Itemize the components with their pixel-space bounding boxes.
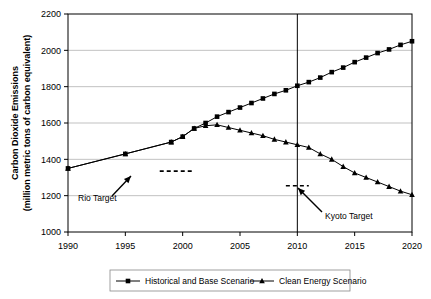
data-point-2013 — [329, 70, 334, 75]
data-point-2007 — [261, 96, 266, 101]
chart-legend: Historical and Base ScenarioClean Energy… — [110, 270, 367, 291]
y-tick-label-2000: 2000 — [41, 46, 61, 56]
y-tick-label-2200: 2200 — [41, 9, 61, 19]
data-point-2008 — [272, 92, 277, 97]
x-axis: 1990199520002005201020152020 — [58, 232, 422, 251]
data-point-2005 — [238, 105, 243, 110]
y-axis-title: Carbon Dioxide Emissions (million metric… — [10, 35, 32, 212]
y-tick-label-1800: 1800 — [41, 82, 61, 92]
data-point-2010 — [295, 83, 300, 88]
y-axis-title-line1: Carbon Dioxide Emissions — [10, 66, 20, 180]
y-tick-label-1200: 1200 — [41, 191, 61, 201]
annotation-label: Rio Target — [78, 193, 117, 203]
y-axis-title-line2: (million metric tons of carbon equivalen… — [22, 35, 32, 212]
data-point-2019 — [398, 43, 403, 48]
data-point-2009 — [284, 88, 289, 93]
annotation-label: Kyoto Target — [325, 211, 373, 221]
y-tick-label-1400: 1400 — [41, 155, 61, 165]
y-tick-label-1000: 1000 — [41, 227, 61, 237]
legend-label: Historical and Base Scenario — [145, 276, 254, 286]
data-point-2020 — [410, 39, 415, 44]
data-point-2015 — [352, 60, 357, 65]
x-tick-label-1995: 1995 — [115, 241, 135, 251]
data-point-2016 — [364, 55, 369, 60]
data-point-2011 — [307, 80, 312, 85]
x-tick-label-1990: 1990 — [58, 241, 78, 251]
legend-sample-marker — [126, 279, 131, 284]
emissions-line-chart: 1000120014001600180020002200 19901995200… — [0, 0, 431, 299]
x-tick-label-2020: 2020 — [402, 241, 422, 251]
data-point-2017 — [375, 51, 380, 56]
x-tick-label-2010: 2010 — [287, 241, 307, 251]
y-axis: 1000120014001600180020002200 — [41, 9, 68, 237]
chart-figure: 1000120014001600180020002200 19901995200… — [0, 0, 431, 299]
data-point-2012 — [318, 75, 323, 80]
x-tick-label-2005: 2005 — [230, 241, 250, 251]
data-point-2014 — [341, 65, 346, 70]
x-tick-label-2015: 2015 — [345, 241, 365, 251]
x-tick-label-2000: 2000 — [173, 241, 193, 251]
data-point-2018 — [387, 47, 392, 52]
y-tick-label-1600: 1600 — [41, 118, 61, 128]
legend-label: Clean Energy Scenario — [279, 276, 367, 286]
data-point-2003 — [215, 114, 220, 119]
data-point-2006 — [249, 101, 254, 106]
data-point-2004 — [226, 110, 231, 115]
